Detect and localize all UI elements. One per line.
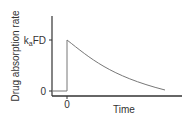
x-axis-title: Time [113, 104, 135, 115]
y-tick-label-peak: kaFD [24, 35, 46, 47]
y-axis-title: Drug absorption rate [10, 10, 21, 102]
x-tick-label-zero: 0 [64, 99, 70, 110]
y-tick-label-zero: 0 [40, 86, 46, 97]
absorption-curve [52, 40, 165, 91]
chart: 0 kaFD 0 Time Drug absorption rate [0, 0, 196, 123]
